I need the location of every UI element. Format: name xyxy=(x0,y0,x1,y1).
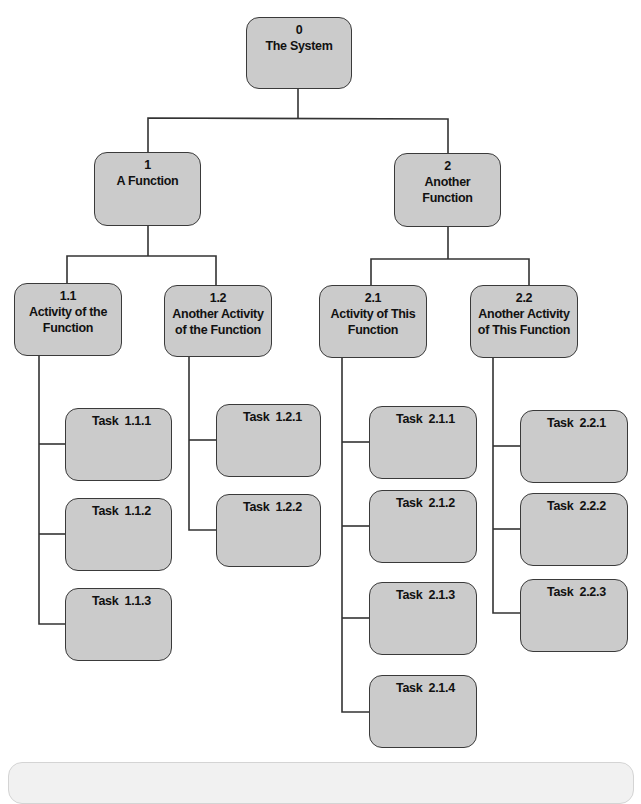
node-id: 2.1 xyxy=(320,290,426,306)
node-label: of This Function xyxy=(471,322,577,338)
node-id: 1.1 xyxy=(15,288,121,304)
task-label: Task 2.1.1 xyxy=(396,411,476,427)
node-task-2-1-3: Task 2.1.3 xyxy=(369,582,477,655)
caption-panel xyxy=(8,762,634,804)
node-activity-1-2: 1.2 Another Activity of the Function xyxy=(164,285,272,357)
node-task-2-1-2: Task 2.1.2 xyxy=(369,490,477,563)
node-label: Activity of This xyxy=(320,306,426,322)
task-label: Task 2.2.2 xyxy=(547,498,627,514)
node-label: Another xyxy=(395,174,500,190)
node-id: 0 xyxy=(247,22,351,38)
task-label: Task 2.2.1 xyxy=(547,415,627,431)
node-label: Function xyxy=(395,190,500,206)
node-task-1-1-3: Task 1.1.3 xyxy=(65,588,172,661)
node-activity-1-1: 1.1 Activity of the Function xyxy=(14,283,122,356)
node-id: 2 xyxy=(395,158,500,174)
task-label: Task 2.2.3 xyxy=(547,584,627,600)
task-label: Task 2.1.3 xyxy=(396,587,476,603)
task-label: Task 1.1.3 xyxy=(92,593,171,609)
node-label: The System xyxy=(247,38,351,54)
node-activity-2-2: 2.2 Another Activity of This Function xyxy=(470,285,578,358)
task-label: Task 1.1.1 xyxy=(92,413,171,429)
node-task-2-2-2: Task 2.2.2 xyxy=(520,493,628,566)
node-label: Function xyxy=(320,322,426,338)
task-label: Task 1.2.2 xyxy=(243,499,320,515)
node-function-2: 2 Another Function xyxy=(394,153,501,227)
node-task-2-1-4: Task 2.1.4 xyxy=(369,675,477,748)
task-label: Task 2.1.4 xyxy=(396,680,476,696)
task-label: Task 2.1.2 xyxy=(396,495,476,511)
node-task-2-2-1: Task 2.2.1 xyxy=(520,410,628,483)
node-root: 0 The System xyxy=(246,17,352,89)
node-task-1-1-1: Task 1.1.1 xyxy=(65,408,172,481)
node-task-1-2-2: Task 1.2.2 xyxy=(216,494,321,567)
node-activity-2-1: 2.1 Activity of This Function xyxy=(319,285,427,358)
node-task-2-2-3: Task 2.2.3 xyxy=(520,579,628,652)
node-label: A Function xyxy=(95,173,200,189)
node-label: of the Function xyxy=(165,322,271,338)
node-label: Function xyxy=(15,320,121,336)
node-id: 1 xyxy=(95,157,200,173)
node-task-2-1-1: Task 2.1.1 xyxy=(369,406,477,479)
node-id: 1.2 xyxy=(165,290,271,306)
task-label: Task 1.1.2 xyxy=(92,503,171,519)
node-label: Another Activity xyxy=(165,306,271,322)
node-id: 2.2 xyxy=(471,290,577,306)
node-function-1: 1 A Function xyxy=(94,152,201,226)
node-task-1-2-1: Task 1.2.1 xyxy=(216,404,321,477)
node-label: Another Activity xyxy=(471,306,577,322)
task-label: Task 1.2.1 xyxy=(243,409,320,425)
node-task-1-1-2: Task 1.1.2 xyxy=(65,498,172,571)
node-label: Activity of the xyxy=(15,304,121,320)
